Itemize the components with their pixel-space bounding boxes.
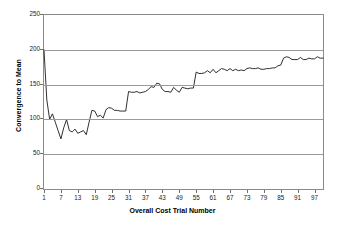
x-tick-mark <box>247 190 248 193</box>
plot-area <box>43 14 324 190</box>
data-line <box>44 15 323 189</box>
x-tick-label: 97 <box>304 194 326 201</box>
x-tick-mark <box>61 190 62 193</box>
x-tick-mark <box>95 190 96 193</box>
x-tick-mark <box>213 190 214 193</box>
x-tick-mark <box>179 190 180 193</box>
x-tick-mark <box>281 190 282 193</box>
convergence-line-chart: 050100150200250 171319253137434955616773… <box>0 0 345 226</box>
gridline <box>44 50 323 51</box>
gridline <box>44 119 323 120</box>
x-tick-mark <box>230 190 231 193</box>
x-tick-mark <box>196 190 197 193</box>
y-axis-title: Convergence to Mean <box>15 36 22 156</box>
gridline <box>44 85 323 86</box>
x-axis-title: Overall Cost Trial Number <box>0 207 345 214</box>
x-tick-mark <box>264 190 265 193</box>
y-tick-label: 250 <box>0 10 40 17</box>
x-tick-mark <box>145 190 146 193</box>
x-tick-mark <box>129 190 130 193</box>
gridline <box>44 154 323 155</box>
x-tick-mark <box>315 190 316 193</box>
y-tick-label: 0 <box>0 184 40 191</box>
x-tick-mark <box>162 190 163 193</box>
x-tick-mark <box>298 190 299 193</box>
x-tick-mark <box>44 190 45 193</box>
x-tick-mark <box>112 190 113 193</box>
x-tick-mark <box>78 190 79 193</box>
